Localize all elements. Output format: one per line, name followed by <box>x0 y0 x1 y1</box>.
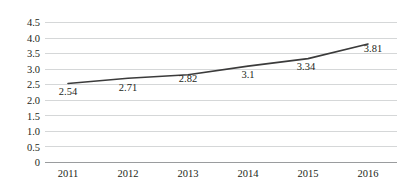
y-tick-label: 1.0 <box>27 126 40 137</box>
line-chart: 4.5 4.0 3.5 3.0 2.5 2.0 1.5 1.0 0.5 0 20… <box>0 0 408 189</box>
y-tick-label: 3.0 <box>27 64 40 75</box>
data-label: 3.1 <box>241 69 254 80</box>
y-tick-label: 0 <box>35 157 40 168</box>
y-tick-label: 4.0 <box>27 33 40 44</box>
x-tick-label: 2013 <box>178 168 199 179</box>
data-label: 3.34 <box>297 61 316 72</box>
x-tick-label: 2014 <box>238 168 260 179</box>
x-tick-label: 2012 <box>118 168 139 179</box>
x-axis-tick-labels: 2011 2012 2013 2014 2015 2016 <box>58 168 379 179</box>
data-label: 2.82 <box>179 73 197 84</box>
data-label: 2.54 <box>59 86 78 97</box>
x-tick-label: 2016 <box>358 168 379 179</box>
y-axis-tick-labels: 4.5 4.0 3.5 3.0 2.5 2.0 1.5 1.0 0.5 0 <box>27 17 40 168</box>
data-label: 3.81 <box>364 43 382 54</box>
y-tick-label: 2.0 <box>27 95 40 106</box>
x-tick-label: 2011 <box>58 168 79 179</box>
gridlines <box>45 23 397 147</box>
y-tick-label: 0.5 <box>27 142 40 153</box>
y-tick-label: 4.5 <box>27 17 40 28</box>
y-tick-label: 3.5 <box>27 48 40 59</box>
y-tick-label: 2.5 <box>27 79 40 90</box>
y-tick-label: 1.5 <box>27 111 40 122</box>
chart-canvas: 4.5 4.0 3.5 3.0 2.5 2.0 1.5 1.0 0.5 0 20… <box>0 0 408 189</box>
x-tick-label: 2015 <box>298 168 319 179</box>
data-label: 2.71 <box>119 82 137 93</box>
data-series-line <box>68 44 368 84</box>
